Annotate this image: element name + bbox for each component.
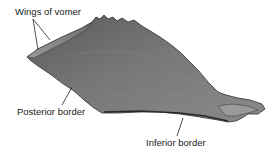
leader-posterior <box>62 87 72 105</box>
leader-inferior <box>177 118 183 136</box>
label-posterior-border: Posterior border <box>17 107 85 117</box>
vomer-bone-illustration <box>0 0 277 152</box>
label-wings-of-vomer: Wings of vomer <box>15 7 81 17</box>
label-inferior-border: Inferior border <box>146 138 206 148</box>
vomer-diagram: Wings of vomer Posterior border Inferior… <box>0 0 277 152</box>
